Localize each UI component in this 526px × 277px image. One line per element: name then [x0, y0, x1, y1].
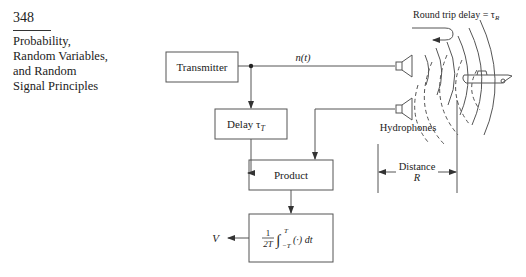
- integrator-block: [249, 214, 333, 262]
- submarine-icon: [463, 71, 512, 83]
- outgoing-wavefronts: [425, 20, 495, 135]
- round-trip-arrow: [412, 28, 453, 40]
- hydrophones-label: Hydrophones: [380, 122, 437, 133]
- transmit-hydrophone-icon: [396, 55, 412, 77]
- svg-text:(·) dt: (·) dt: [293, 234, 313, 246]
- sonar-block-diagram: Transmitter Delay τT Product 1 2T ∫ T −T…: [0, 0, 526, 277]
- svg-text:∫: ∫: [275, 232, 282, 249]
- signal-label: n(t): [295, 52, 311, 64]
- product-label: Product: [274, 169, 308, 181]
- svg-text:2T: 2T: [263, 239, 274, 249]
- svg-text:−T: −T: [282, 242, 292, 250]
- output-label: V: [212, 232, 220, 244]
- svg-text:1: 1: [266, 228, 271, 238]
- distance-symbol: R: [413, 172, 421, 183]
- round-trip-label: Round trip delay = τR: [413, 9, 500, 22]
- delay-label: Delay τT: [227, 118, 265, 133]
- integrator-expression: 1 2T ∫ T −T (·) dt: [262, 227, 313, 250]
- transmitter-label: Transmitter: [177, 61, 228, 73]
- distance-label: Distance: [399, 161, 436, 172]
- svg-text:T: T: [284, 227, 289, 235]
- junction-dot: [249, 64, 253, 68]
- receive-line: [315, 109, 395, 159]
- receive-hydrophone-icon: [396, 98, 412, 120]
